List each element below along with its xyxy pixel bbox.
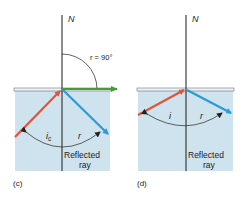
total-internal-reflection-diagram: N r = 90° ic r Reflected ray (c) N i r R… <box>0 0 249 199</box>
panel-c: N r = 90° ic r Reflected ray (c) <box>13 14 117 188</box>
refraction-angle-label: r = 90° <box>90 53 112 62</box>
normal-label: N <box>68 14 75 24</box>
reflected-ray-text-line1: Reflected <box>64 150 100 160</box>
panel-caption-d: (d) <box>137 179 147 188</box>
panel-d: N i r Reflected ray (d) <box>137 14 234 188</box>
reflected-ray-text-line1: Reflected <box>188 150 224 160</box>
reflected-ray-text-line2: ray <box>79 160 92 170</box>
normal-label: N <box>192 14 199 24</box>
panel-caption-c: (c) <box>13 179 23 188</box>
reflected-ray-text-line2: ray <box>203 160 216 170</box>
